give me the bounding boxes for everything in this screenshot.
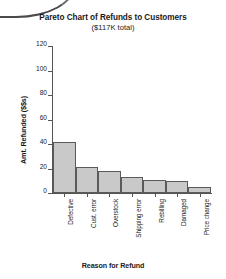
- x-axis-tick: [132, 193, 133, 197]
- y-axis-title: Amt. Refunded ($$s): [19, 96, 28, 164]
- bar: [143, 180, 166, 193]
- y-axis-tick: [48, 144, 52, 145]
- bar: [166, 181, 189, 193]
- x-axis-tick: [109, 193, 110, 197]
- bar: [76, 167, 99, 193]
- x-axis-tick: [155, 193, 156, 197]
- y-axis-tick: [48, 169, 52, 170]
- y-axis-tick-label: 120: [25, 43, 47, 44]
- y-axis-tick: [48, 193, 52, 194]
- y-axis-tick-label: 20: [25, 166, 47, 167]
- x-axis-category-label: Defective: [67, 199, 74, 225]
- y-axis-tick: [48, 120, 52, 121]
- x-axis-tick: [87, 193, 88, 197]
- x-axis-tick: [200, 193, 201, 197]
- x-axis-category-label: Rebilling: [158, 199, 165, 223]
- y-axis-tick: [48, 95, 52, 96]
- x-axis-category-label: Overstock: [112, 199, 119, 227]
- y-axis-tick-label: 0: [25, 190, 47, 191]
- bar: [121, 177, 144, 193]
- plot-area: 020406080100120DefectiveCust. errorOvers…: [53, 46, 211, 193]
- y-axis-tick: [48, 46, 52, 47]
- chart-subtitle: ($117K total): [0, 23, 226, 33]
- y-axis-tick: [48, 71, 52, 72]
- y-axis-tick-label: 80: [25, 92, 47, 93]
- y-axis-tick-label: 60: [25, 117, 47, 118]
- x-axis-category-label: Price change: [203, 199, 210, 235]
- bar: [53, 142, 76, 193]
- x-axis-category-label: Shipping error: [135, 199, 142, 238]
- chart-title: Pareto Chart of Refunds to Customers: [0, 13, 226, 23]
- y-axis-tick-label: 40: [25, 141, 47, 142]
- x-axis-tick: [64, 193, 65, 197]
- x-axis-title: Reason for Refund: [0, 261, 226, 270]
- x-axis-category-label: Cust. error: [90, 199, 97, 228]
- y-axis-tick-label: 100: [25, 68, 47, 69]
- x-axis-tick: [177, 193, 178, 197]
- bar: [98, 171, 121, 193]
- x-axis-category-label: Damaged: [180, 199, 187, 226]
